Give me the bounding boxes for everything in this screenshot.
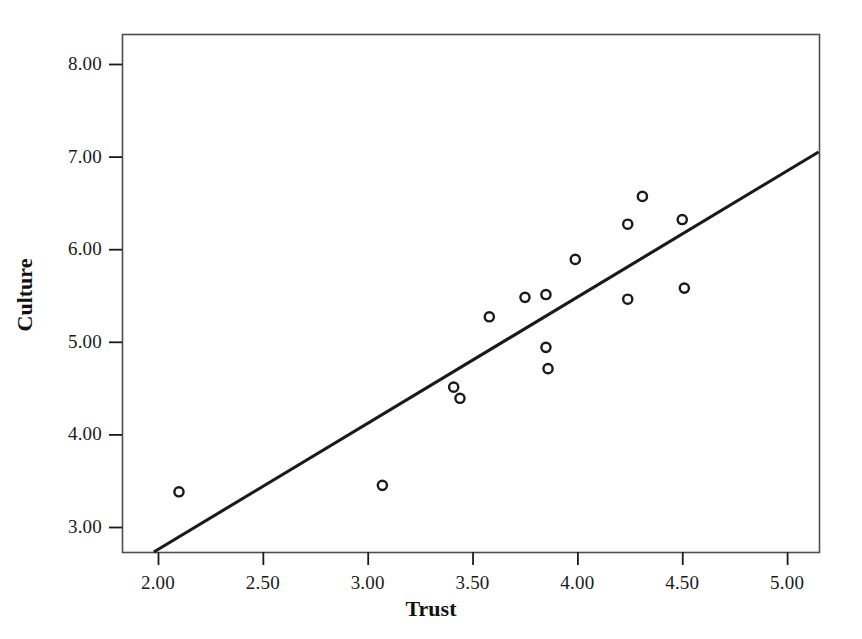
x-axis-title: Trust bbox=[0, 596, 862, 622]
data-point bbox=[680, 283, 689, 292]
y-tick-label-4: 4.00 bbox=[0, 423, 102, 445]
data-point bbox=[543, 364, 552, 373]
data-point bbox=[541, 290, 550, 299]
y-tick-label-5: 3.00 bbox=[0, 516, 102, 538]
plot-canvas bbox=[0, 0, 862, 639]
data-point bbox=[520, 293, 529, 302]
x-tick-label-1: 2.50 bbox=[246, 572, 280, 594]
x-tick-label-4: 4.00 bbox=[560, 572, 594, 594]
data-point bbox=[485, 312, 494, 321]
x-tick-label-6: 5.00 bbox=[770, 572, 804, 594]
y-tick-label-3: 5.00 bbox=[0, 331, 102, 353]
scatter-plot-figure: Culture Trust 8.007.006.005.004.003.00 2… bbox=[0, 0, 862, 639]
data-point bbox=[449, 383, 458, 392]
data-point bbox=[174, 487, 183, 496]
data-point bbox=[455, 394, 464, 403]
data-point bbox=[678, 215, 687, 224]
x-tick-label-0: 2.00 bbox=[141, 572, 175, 594]
data-point bbox=[541, 343, 550, 352]
data-point bbox=[638, 192, 647, 201]
x-tick-label-3: 3.50 bbox=[456, 572, 490, 594]
y-tick-label-1: 7.00 bbox=[0, 146, 102, 168]
data-point bbox=[623, 295, 632, 304]
data-point bbox=[378, 481, 387, 490]
y-tick-label-2: 6.00 bbox=[0, 238, 102, 260]
data-point bbox=[571, 255, 580, 264]
x-tick-label-2: 3.00 bbox=[351, 572, 385, 594]
y-tick-label-0: 8.00 bbox=[0, 53, 102, 75]
plot-frame bbox=[123, 35, 820, 553]
x-tick-label-5: 4.50 bbox=[665, 572, 699, 594]
data-point bbox=[623, 220, 632, 229]
